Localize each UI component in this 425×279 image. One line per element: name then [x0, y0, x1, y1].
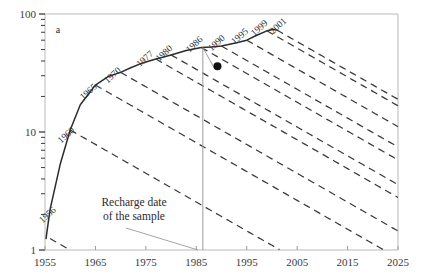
sample-data-point	[213, 62, 221, 70]
x-tick-label: 1955	[34, 256, 57, 268]
x-tick-label: 2005	[286, 256, 309, 268]
panel-label: a	[56, 24, 61, 35]
decay-trajectory	[222, 46, 399, 147]
curve-year-label: 1990	[206, 33, 227, 53]
recharge-annotation-line2: of the sample	[103, 210, 165, 223]
plot-frame	[45, 14, 398, 250]
decay-trajectory	[95, 85, 382, 249]
decay-trajectory	[201, 48, 398, 160]
curve-year-label: 1986	[184, 34, 205, 54]
x-tick-label: 1985	[185, 256, 208, 268]
curve-year-label: 1977	[134, 48, 155, 68]
decay-trajectory	[267, 31, 398, 106]
decay-trajectory	[247, 40, 398, 127]
x-tick-label: 1995	[236, 256, 259, 268]
recharge-annotation-leader	[126, 228, 198, 250]
decay-trajectory	[156, 59, 398, 197]
chart-canvas: 1101001955196519751985199520052015202519…	[0, 0, 425, 279]
decay-trajectory	[277, 30, 398, 99]
decay-trajectory	[50, 239, 68, 249]
x-tick-label: 2015	[337, 256, 360, 268]
x-tick-label: 1965	[84, 256, 107, 268]
decay-trajectory	[70, 130, 279, 250]
curve-year-label: 1980	[154, 43, 175, 63]
tritium-input-curve-figure: 1101001955196519751985199520052015202519…	[0, 0, 425, 279]
curve-year-label: 1970	[102, 65, 123, 85]
recharge-annotation-line1: Recharge date	[101, 196, 166, 209]
y-tick-label: 1	[31, 244, 37, 256]
y-tick-label: 100	[20, 8, 37, 20]
x-tick-label: 1975	[135, 256, 158, 268]
y-tick-label: 10	[25, 126, 37, 138]
curve-year-label: 1995	[229, 26, 250, 46]
x-tick-label: 2025	[387, 256, 410, 268]
curve-year-label: 2001	[268, 16, 289, 36]
decay-trajectory	[171, 55, 398, 185]
